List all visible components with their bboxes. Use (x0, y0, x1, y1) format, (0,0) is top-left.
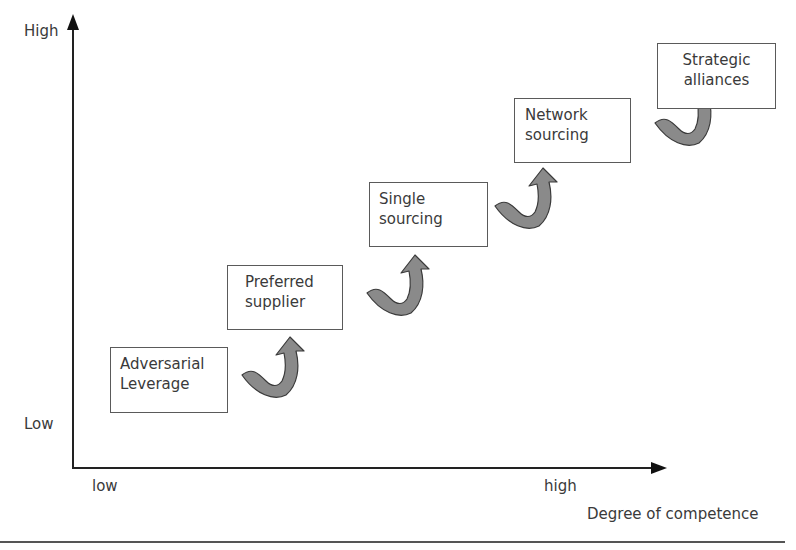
stage-label: Network sourcing (525, 105, 589, 145)
stage-label: Single sourcing (379, 189, 443, 229)
y-axis-low-label: Low (24, 415, 54, 433)
stage-box-single-sourcing: Single sourcing (369, 182, 488, 247)
y-axis-arrowhead-icon (67, 14, 79, 30)
x-axis-arrowhead-icon (651, 462, 667, 474)
curved-arrow-icon (242, 337, 304, 397)
y-axis-high-label: High (24, 22, 58, 40)
stage-box-strategic-alliances: Strategic alliances (657, 43, 776, 109)
stage-box-adversarial-leverage: Adversarial Leverage (110, 347, 228, 413)
curved-arrow-icon (367, 255, 429, 315)
curved-arrow-icon (495, 168, 557, 228)
x-axis-high-label: high (544, 477, 577, 495)
bottom-rule-divider (0, 541, 785, 543)
stage-box-preferred-supplier: Preferred supplier (227, 265, 343, 330)
x-axis-low-label: low (92, 477, 118, 495)
stage-label: Strategic alliances (658, 50, 775, 90)
stage-box-network-sourcing: Network sourcing (514, 98, 631, 163)
stage-label: Adversarial Leverage (120, 354, 205, 394)
x-axis-title: Degree of competence (587, 505, 758, 523)
stage-label: Preferred supplier (245, 272, 314, 312)
